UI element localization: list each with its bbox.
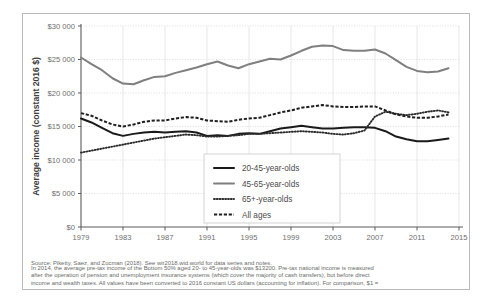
legend-label-1: 45-65-year-olds xyxy=(242,180,299,189)
x-tick-label: 2011 xyxy=(409,233,425,242)
x-tick-label: 1995 xyxy=(241,233,258,242)
y-tick-label: $20 000 xyxy=(48,89,75,98)
y-tick-label: $25 000 xyxy=(48,55,75,64)
x-tick-label: 1991 xyxy=(199,233,216,242)
y-axis-label: Average income (constant 2016 $) xyxy=(31,57,41,196)
y-tick-label: $10 000 xyxy=(48,156,75,165)
x-tick-label: 1983 xyxy=(115,233,132,242)
x-tick-label: 2007 xyxy=(367,233,384,242)
series-line-3 xyxy=(81,105,449,126)
caption-block: In 2014, the average pre-tax income of t… xyxy=(31,265,463,287)
caption-line-3: income and wealth taxes. All values have… xyxy=(31,280,463,287)
y-tick-label: $0 xyxy=(67,223,75,232)
legend-label-2: 65+-year-olds xyxy=(242,195,292,204)
x-tick-label: 1979 xyxy=(73,233,90,242)
legend-label-3: All ages xyxy=(242,211,271,220)
x-tick-label: 2003 xyxy=(325,233,342,242)
y-tick-label: $5 000 xyxy=(52,189,75,198)
series-line-1 xyxy=(81,45,449,84)
series-line-0 xyxy=(81,118,449,141)
line-chart: $0$5 000$10 000$15 000$20 000$25 000$30 … xyxy=(23,14,471,291)
x-tick-label: 1999 xyxy=(283,233,300,242)
y-tick-label: $15 000 xyxy=(48,122,75,131)
figure-container: $0$5 000$10 000$15 000$20 000$25 000$30 … xyxy=(22,13,470,290)
caption-line-2: after the operation of pension and unemp… xyxy=(31,272,463,279)
caption-line-1: In 2014, the average pre-tax income of t… xyxy=(31,265,463,272)
x-tick-label: 1987 xyxy=(157,233,174,242)
y-tick-label: $30 000 xyxy=(48,22,75,31)
legend-label-0: 20-45-year-olds xyxy=(242,164,299,173)
x-tick-label: 2015 xyxy=(451,233,468,242)
